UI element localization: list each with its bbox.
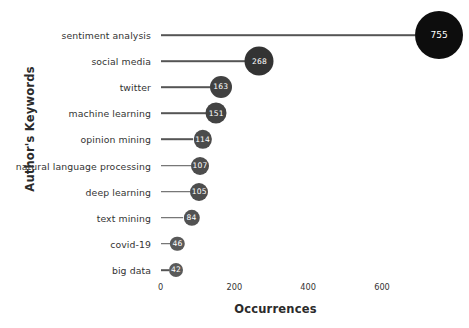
category-label: machine learning [69,108,160,119]
stem-line [161,165,192,167]
data-point-bubble[interactable]: 105 [190,183,208,201]
x-axis-tick-label: 0 [158,282,163,292]
category-label: covid-19 [110,238,160,249]
x-axis-tick-label: 200 [227,282,243,292]
data-point-bubble[interactable]: 163 [210,76,232,98]
data-point-bubble[interactable]: 114 [193,130,211,148]
category-label: deep learning [86,186,160,197]
category-label: big data [112,265,160,276]
category-label: social media [91,56,160,67]
data-point-bubble[interactable]: 107 [191,157,209,175]
stem-line [161,60,245,62]
x-axis: 0200400600 [0,282,469,302]
stem-line [161,86,210,88]
data-point-bubble[interactable]: 84 [183,210,199,226]
x-axis-tick-label: 400 [300,282,316,292]
stem-line [161,139,194,141]
data-point-bubble[interactable]: 151 [206,103,227,124]
stem-line [161,217,184,219]
category-label: sentiment analysis [62,30,160,41]
data-point-bubble[interactable]: 42 [169,263,183,277]
category-label: text mining [97,212,160,223]
data-point-bubble[interactable]: 268 [245,47,274,76]
category-label: opinion mining [81,134,161,145]
category-label: natural language processing [16,160,160,171]
plot-area: sentiment analysis755social media268twit… [0,0,469,328]
stem-line [161,113,206,115]
stem-line [161,34,416,36]
x-axis-title: Occurrences [0,302,469,316]
data-point-bubble[interactable]: 46 [170,237,184,251]
lollipop-chart: Author's Keywords sentiment analysis755s… [0,0,469,328]
x-axis-tick-label: 600 [374,282,390,292]
stem-line [161,191,191,193]
stem-line [161,243,171,245]
category-label: twitter [120,82,160,93]
stem-line [161,269,170,271]
data-point-bubble[interactable]: 755 [415,11,463,59]
